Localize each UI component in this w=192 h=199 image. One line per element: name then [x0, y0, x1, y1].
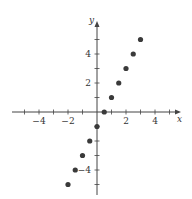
x-tick-label: −2: [61, 116, 74, 126]
data-point: [94, 124, 99, 129]
data-point: [65, 182, 70, 187]
data-point: [80, 153, 85, 158]
data-point: [116, 80, 121, 85]
axes: [12, 21, 181, 195]
y-axis-label: y: [88, 15, 95, 25]
x-axis-label: x: [177, 114, 182, 124]
y-axis-arrow-icon: [95, 21, 100, 27]
tick-labels: xy−4−22442−4: [32, 15, 182, 175]
y-tick-label: 4: [85, 49, 91, 59]
data-point: [109, 95, 114, 100]
y-tick-label: −4: [78, 165, 92, 175]
scatter-plot: xy−4−22442−4: [0, 0, 192, 199]
x-tick-label: −4: [32, 116, 46, 126]
data-point: [123, 66, 128, 71]
data-point: [73, 167, 78, 172]
x-tick-label: 4: [152, 116, 158, 126]
x-tick-label: 2: [123, 116, 129, 126]
data-point: [138, 37, 143, 42]
y-tick-label: 2: [85, 78, 91, 88]
data-point: [102, 109, 107, 114]
data-point: [131, 51, 136, 56]
data-point: [87, 138, 92, 143]
